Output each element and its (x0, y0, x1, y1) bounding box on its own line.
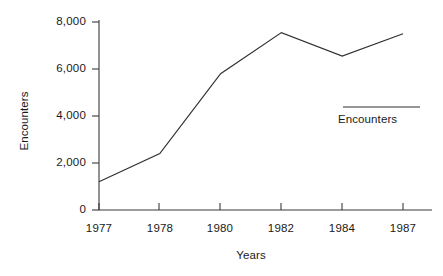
line-chart: Encounters 8,000 6,000 4,000 2,000 0 197… (0, 0, 443, 276)
plot-area (0, 0, 443, 276)
